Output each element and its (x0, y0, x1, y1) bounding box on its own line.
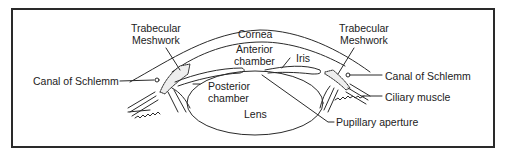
leader-trabecular-right (338, 48, 354, 74)
leader-canal-left (120, 80, 154, 81)
label-text: Posterior (208, 80, 250, 92)
label-text: Meshwork (339, 34, 389, 46)
label-pupillary-aperture: Pupillary aperture (336, 116, 418, 128)
label-text: Anterior (234, 43, 275, 55)
canal-right (346, 73, 350, 77)
label-ciliary-muscle: Ciliary muscle (385, 91, 450, 103)
ciliary-body-left (168, 88, 190, 112)
label-text: chamber (208, 92, 250, 104)
label-canal-right: Canal of Schlemm (385, 70, 471, 82)
label-trabecular-left: Trabecular Meshwork (131, 22, 181, 46)
iris-right (265, 66, 321, 74)
label-iris: Iris (296, 52, 310, 64)
ciliary-muscle-left (128, 92, 158, 116)
ciliary-processes-left (135, 112, 160, 118)
label-anterior-chamber: Anterior chamber (234, 43, 275, 67)
label-text: Trabecular (131, 22, 181, 34)
label-trabecular-right: Trabecular Meshwork (339, 22, 389, 46)
label-canal-left: Canal of Schlemm (33, 75, 119, 87)
label-text: chamber (234, 55, 275, 67)
label-lens: Lens (244, 108, 267, 120)
ciliary-processes-right (335, 96, 364, 100)
label-text: Trabecular (339, 22, 389, 34)
label-cornea: Cornea (238, 28, 272, 40)
label-posterior-chamber: Posterior chamber (208, 80, 250, 104)
canal-left (155, 78, 159, 82)
leader-trabecular-left (166, 48, 180, 70)
label-text: Meshwork (131, 34, 181, 46)
